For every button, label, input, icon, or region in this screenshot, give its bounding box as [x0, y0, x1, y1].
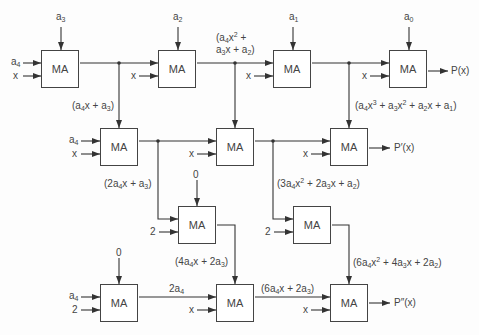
- input-x: x: [303, 304, 308, 316]
- junction-dot: [117, 61, 121, 65]
- input-x: x: [189, 148, 194, 160]
- input-a4: a4: [69, 290, 78, 302]
- input-two: 2: [265, 226, 271, 238]
- ma-block-r2-c3: MA: [330, 128, 368, 166]
- input-a4: a4: [11, 56, 20, 68]
- ma-block-r4-c2: MA: [216, 284, 254, 322]
- block-label: MA: [341, 141, 358, 153]
- input-a1: a1: [289, 11, 298, 23]
- horner-derivative-diagram: MA MA MA MA MA MA MA MA MA MA MA MA a3 a…: [0, 0, 479, 335]
- intermediate-r4-2: (6a4x + 2a3): [261, 283, 314, 295]
- intermediate-r1-3: (a4x3 + a3x2 + a2x + a1): [355, 100, 457, 112]
- input-a2: a2: [173, 11, 182, 23]
- intermediate-r1-2: (a4x2 +a3x + a2): [216, 32, 255, 56]
- block-label: MA: [169, 63, 186, 75]
- block-label: MA: [400, 63, 417, 75]
- input-a4: a4: [69, 134, 78, 146]
- input-x: x: [131, 70, 136, 82]
- input-x: x: [362, 70, 367, 82]
- output-p-prime: P′(x): [394, 142, 414, 154]
- output-p-double-prime: P″(x): [394, 297, 416, 309]
- ma-block-r1-c1: MA: [41, 50, 79, 88]
- block-label: MA: [341, 297, 358, 309]
- input-zero: 0: [193, 169, 199, 181]
- input-x: x: [303, 148, 308, 160]
- ma-block-r4-c3: MA: [330, 284, 368, 322]
- intermediate-r4-1: 2a4: [169, 283, 184, 295]
- input-zero: 0: [116, 247, 122, 259]
- ma-block-r1-c3: MA: [273, 50, 311, 88]
- intermediate-r1-1: (a4x + a3): [72, 100, 114, 112]
- input-two: 2: [72, 304, 78, 316]
- block-label: MA: [227, 297, 244, 309]
- intermediate-r2-2: (3a4x2 + 2a3x + a2): [277, 178, 360, 190]
- input-x: x: [246, 70, 251, 82]
- intermediate-r3-1: (4a4x + 2a3): [175, 256, 228, 268]
- input-x: x: [189, 304, 194, 316]
- junction-dot: [233, 61, 237, 65]
- block-label: MA: [111, 297, 128, 309]
- block-label: MA: [284, 63, 301, 75]
- ma-block-r1-c4: MA: [389, 50, 427, 88]
- input-a3: a3: [56, 11, 65, 23]
- output-p: P(x): [451, 65, 469, 77]
- junction-dot: [271, 139, 275, 143]
- ma-block-r4-c1: MA: [100, 284, 138, 322]
- input-x: x: [13, 70, 18, 82]
- block-label: MA: [111, 141, 128, 153]
- input-a0: a0: [404, 11, 413, 23]
- intermediate-r2-1: (2a4x + a3): [104, 178, 152, 190]
- input-two: 2: [150, 226, 156, 238]
- block-label: MA: [227, 141, 244, 153]
- junction-dot: [156, 139, 160, 143]
- block-label: MA: [189, 219, 206, 231]
- ma-block-r2-c1: MA: [100, 128, 138, 166]
- block-label: MA: [52, 63, 69, 75]
- ma-block-r1-c2: MA: [158, 50, 196, 88]
- ma-block-r2-c2: MA: [216, 128, 254, 166]
- input-x: x: [72, 148, 77, 160]
- ma-block-r3-c1: MA: [178, 206, 216, 244]
- junction-dot: [347, 61, 351, 65]
- block-label: MA: [304, 219, 321, 231]
- intermediate-r3-2: (6a4x2 + 4a3x + 2a2): [353, 257, 441, 269]
- ma-block-r3-c2: MA: [293, 206, 331, 244]
